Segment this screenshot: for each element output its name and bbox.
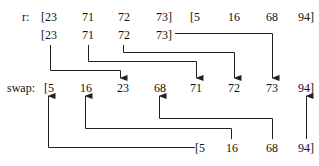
merge-swap-diagram: r: [23 71 72 73] [5 16 68 94] [23 71 72 … — [0, 0, 319, 166]
swap-item: 68 — [154, 82, 166, 94]
swap-item: 16 — [80, 82, 92, 94]
r-top-item: 68 — [266, 11, 278, 23]
swap-item: 71 — [190, 82, 202, 94]
r-right-item: 68 — [266, 142, 278, 154]
r-left-item: 72 — [118, 29, 130, 41]
swap-item: 94] — [298, 82, 314, 94]
r-top-item: 72 — [118, 11, 130, 23]
swap-item: 73 — [266, 82, 278, 94]
r-left-item: 71 — [82, 29, 94, 41]
r-top-item: 94] — [298, 11, 314, 23]
swap-item: 72 — [228, 82, 240, 94]
label-r: r: — [22, 11, 29, 23]
r-left-item: 73] — [156, 29, 172, 41]
r-top-item: [23 — [41, 11, 57, 23]
r-top-item: 73] — [156, 11, 172, 23]
r-top-item: [5 — [190, 11, 200, 23]
r-top-item: 71 — [82, 11, 94, 23]
r-right-item: [5 — [195, 142, 205, 154]
r-right-item: 16 — [226, 142, 238, 154]
swap-item: 23 — [117, 82, 129, 94]
r-right-item: 94] — [298, 142, 314, 154]
r-left-item: [23 — [41, 29, 57, 41]
label-swap: swap: — [7, 82, 35, 94]
swap-item: [5 — [44, 82, 54, 94]
r-top-item: 16 — [228, 11, 240, 23]
